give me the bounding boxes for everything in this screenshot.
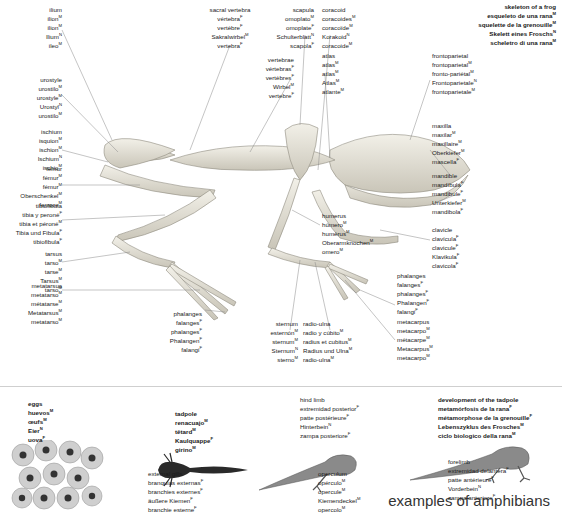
label-sternum: sternum esternónM sternumM SternumN ster… xyxy=(250,320,298,363)
eggs-illustration xyxy=(8,440,108,510)
label-hind-limb: hind limb extremidad posteriorF patte po… xyxy=(300,396,359,439)
label-maxilla: maxilla maxilarM maxillaireM OberkieferM… xyxy=(432,122,464,165)
label-development: development of the tadpole metamórfosis … xyxy=(438,396,532,439)
label-tibiofibula: tibiofibula tibia y peronéF tibia et pér… xyxy=(0,202,62,245)
label-radio-ulna: radio-ulna radio y cúbitoM radius et cub… xyxy=(303,320,352,363)
label-frontoparietal: frontoparietal frontoparietalM fronto-pa… xyxy=(432,52,477,95)
label-clavicle: clavicle clavículaF claviculeF Klavikula… xyxy=(432,226,459,269)
label-phalanges-foot: phalanges falangesF phalangesF Phalangen… xyxy=(150,310,202,353)
label-sacral-vertebra: sacral vertebra vértebraF vertèbreF Sakr… xyxy=(190,6,270,49)
page-caption: examples of amphibians xyxy=(388,492,550,509)
label-external-gills: external gills branquias externasF branc… xyxy=(148,470,203,513)
skeleton-title: skeleton of a frog esqueleto de una rana… xyxy=(440,3,556,46)
label-coracoid: coracoid coracoidesM coracoïdeM Korakoid… xyxy=(322,6,355,49)
label-metatarsus: metatarsus metatarsoM métatarseM Metatar… xyxy=(10,282,62,325)
label-ilium: ilium ilionM ilionM IliumN ileoM xyxy=(10,6,62,49)
label-operculum: operculum opérculoM operculeM Kiemendeck… xyxy=(318,470,360,513)
label-phalanges-hand: phalanges falangesF phalangesF Phalangen… xyxy=(397,272,429,315)
label-eggs: eggs huevosM œufsM EierN uovaF xyxy=(28,400,53,443)
section-divider xyxy=(0,386,562,387)
label-urostyle: urostyle urostiloM urostyleM UrostylN ur… xyxy=(10,76,62,119)
label-tadpole: tadpole renacuajoM têtardM KaulquappeF g… xyxy=(175,410,213,453)
label-atlas: atlas atlasM atlasM AtlasM atlanteM xyxy=(322,52,344,95)
label-humerus: humerus húmeroM humérusM OberarmknochenM… xyxy=(322,212,373,255)
label-mandible: mandible mandíbulaF mandibuleF Unterkief… xyxy=(432,172,466,215)
label-vertebrae: vertebrae vértebrasF vertèbresF WirbelM … xyxy=(250,56,294,99)
label-scapula: scapula omoplatoM omoplateF Schulterblat… xyxy=(270,6,314,49)
label-metacarpus: metacarpus metacarpoM métacarpeM Metacar… xyxy=(397,318,433,361)
